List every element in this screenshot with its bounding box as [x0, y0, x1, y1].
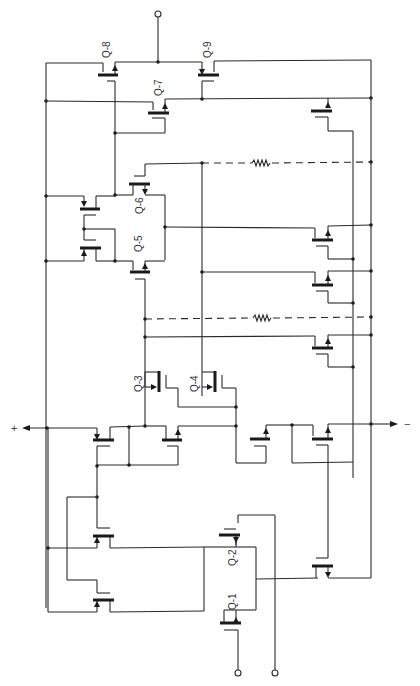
transistor-q4: Q-4 [189, 371, 236, 426]
resistor-upper [252, 160, 270, 166]
transistor-right-mid-2 [202, 271, 371, 303]
transistor-bottom-left-upper [93, 528, 204, 548]
q6-label: Q-6 [134, 197, 145, 214]
transistor-left-pair-lower [46, 229, 115, 261]
transistor-right-top [311, 98, 353, 478]
transistor-q7: Q-7 [115, 79, 371, 133]
transistor-out-right-2 [292, 424, 371, 558]
positive-output-label: + [11, 422, 17, 434]
positive-output[interactable]: + [11, 422, 30, 434]
transistor-left-pair-upper [46, 196, 115, 229]
circuit-schematic: Q-8 Q-9 Q-7 [0, 0, 420, 686]
q2-label: Q-2 [227, 549, 238, 566]
transistor-out-left-1 [93, 426, 145, 466]
q4-label: Q-4 [189, 375, 200, 392]
q9-label: Q-9 [202, 41, 213, 58]
q8-label: Q-8 [101, 41, 112, 58]
resistor-lower [253, 315, 271, 321]
negative-output[interactable]: − [371, 418, 410, 430]
transistor-q5: Q-5 [115, 235, 165, 426]
transistor-right-mid-1 [312, 225, 371, 259]
q7-label: Q-7 [153, 79, 164, 96]
q1-label: Q-1 [227, 593, 238, 610]
transistor-out-right-1 [236, 425, 292, 463]
transistor-q6: Q-6 [115, 163, 202, 260]
transistor-bottom-left-lower [48, 580, 204, 612]
transistor-out-left-2 [145, 426, 236, 465]
q2-input-terminal[interactable] [272, 670, 278, 676]
q1-input-terminal[interactable] [235, 670, 241, 676]
q3-label: Q-3 [133, 375, 144, 392]
negative-output-label: − [404, 418, 410, 430]
transistor-q1: Q-1 [220, 593, 256, 670]
transistor-q2: Q-2 [204, 515, 275, 670]
transistor-q3: Q-3 [133, 371, 236, 407]
q5-label: Q-5 [133, 235, 144, 252]
transistor-q9: Q-9 [198, 41, 371, 99]
transistor-q8: Q-8 [46, 41, 118, 196]
transistor-right-low [145, 335, 371, 367]
transistor-bottom-right [312, 558, 371, 578]
top-terminal[interactable] [155, 11, 161, 62]
